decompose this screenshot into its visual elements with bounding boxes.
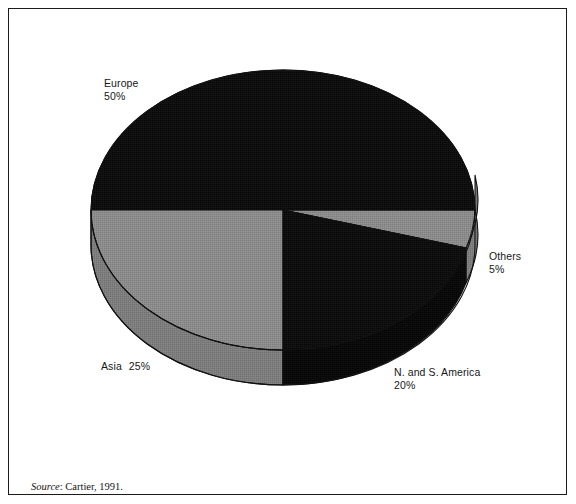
slice-label-north-and-south-america: N. and S. America 20% (394, 366, 480, 391)
source-note-prefix: Source (31, 481, 60, 492)
source-note: Source: Cartier, 1991. (31, 481, 123, 492)
slice-label-america-name: N. and S. America (394, 366, 480, 379)
slice-label-europe-name: Europe (104, 77, 138, 90)
slice-label-europe: Europe 50% (104, 77, 138, 102)
pie-slice-europe (91, 70, 475, 210)
slice-label-america-value: 20% (394, 379, 480, 392)
source-note-text: Cartier, 1991. (65, 481, 123, 492)
source-note-separator: : (60, 481, 63, 492)
pie-chart: Europe 50% Others 5% N. and S. America 2… (0, 0, 576, 504)
slice-label-asia-value: 25% (129, 360, 150, 372)
pie-slice-asia (91, 210, 283, 350)
slice-label-europe-value: 50% (104, 90, 138, 103)
slice-label-others-value: 5% (489, 263, 521, 276)
slice-label-asia: Asia 25% (101, 360, 150, 373)
slice-label-others-name: Others (489, 250, 521, 263)
slice-label-others: Others 5% (489, 250, 521, 275)
slice-label-asia-name: Asia (101, 360, 122, 372)
